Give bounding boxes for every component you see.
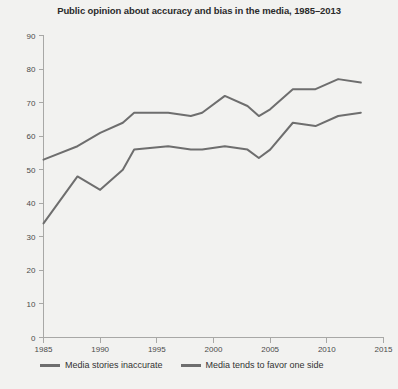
chart-legend: Media stories inaccurate Media tends to … (40, 360, 390, 370)
y-tick-label: 10 (27, 300, 36, 309)
y-tick-label: 90 (27, 32, 36, 41)
legend-item-media-tends-to-favor-one-side: Media tends to favor one side (181, 360, 324, 370)
y-tick-label: 70 (27, 99, 36, 108)
x-tick-label: 2015 (375, 345, 393, 354)
x-tick-label: 2010 (318, 345, 336, 354)
x-axis: 1985199019952000200520102015 (35, 338, 393, 354)
series-line-media-stories-inaccurate (44, 113, 361, 224)
y-tick-label: 0 (31, 334, 36, 343)
y-tick-label: 20 (27, 266, 36, 275)
legend-label-media-tends-to-favor-one-side: Media tends to favor one side (206, 360, 324, 370)
line-chart-plot: 0102030405060708090 19851990199520002005… (0, 0, 398, 389)
x-tick-label: 1990 (91, 345, 109, 354)
y-tick-label: 60 (27, 132, 36, 141)
x-tick-label: 1985 (35, 345, 53, 354)
legend-item-media-stories-inaccurate: Media stories inaccurate (40, 360, 163, 370)
y-axis: 0102030405060708090 (27, 32, 44, 343)
chart-figure: Public opinion about accuracy and bias i… (0, 0, 398, 389)
x-tick-label: 2005 (261, 345, 279, 354)
series-line-media-tends-to-favor-one-side (44, 79, 361, 160)
y-tick-label: 30 (27, 233, 36, 242)
legend-label-media-stories-inaccurate: Media stories inaccurate (65, 360, 163, 370)
y-tick-label: 50 (27, 166, 36, 175)
y-tick-label: 80 (27, 65, 36, 74)
y-tick-label: 40 (27, 199, 36, 208)
x-tick-label: 1995 (148, 345, 166, 354)
x-tick-label: 2000 (205, 345, 223, 354)
legend-line-swatch-icon (40, 364, 60, 367)
data-series-group (44, 79, 361, 223)
legend-line-swatch-icon (181, 364, 201, 367)
